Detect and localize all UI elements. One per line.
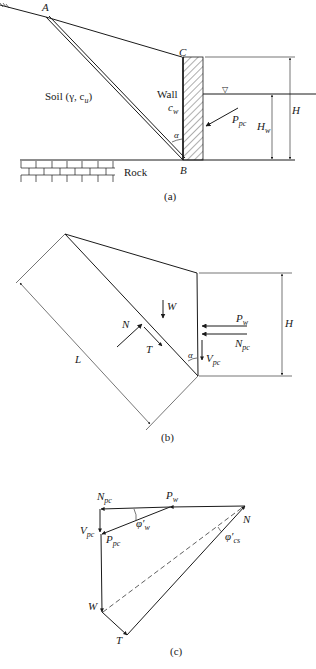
label-pw-c: Pw (166, 490, 178, 504)
wedge-top (65, 234, 197, 273)
wedge-wall (197, 273, 198, 376)
label-alpha-b: α (188, 351, 193, 360)
label-rock: Rock (124, 167, 147, 178)
vector-npc (101, 507, 170, 509)
label-hw: Hw (257, 121, 270, 135)
label-phi-cs: φ′cs (225, 531, 240, 545)
label-w: W (167, 301, 176, 312)
label-phi-w: φ′w (136, 518, 150, 532)
label-w-c: W (88, 601, 97, 612)
label-vpc-c: Vpc (80, 525, 94, 539)
label-h-b: H (285, 318, 293, 329)
ground-surface (0, 5, 46, 17)
label-npc-c: Npc (97, 491, 112, 505)
label-point-c: C (179, 47, 186, 58)
label-point-b: B (180, 165, 187, 176)
vector-t (102, 612, 127, 635)
label-n: N (122, 319, 129, 330)
label-n-c: N (243, 514, 250, 525)
label-t-c: T (116, 635, 122, 646)
label-pw: Pw (236, 313, 248, 327)
label-ppc-c: Ppc (106, 534, 120, 548)
label-soil: Soil (γ, cu) (45, 91, 92, 105)
caption-c: (c) (170, 646, 182, 657)
water-table-icon: ▽ (222, 86, 228, 94)
label-wall: Wall (157, 89, 178, 100)
force-n-arrow (117, 324, 142, 347)
label-wall-cw: cw (168, 102, 178, 116)
label-ppc: Ppc (232, 114, 246, 128)
rock-bricks (21, 161, 115, 182)
vector-w (101, 534, 102, 612)
panel-b (16, 234, 292, 430)
label-npc: Npc (235, 338, 250, 352)
panel-c (100, 506, 245, 635)
caption-b: (b) (161, 432, 174, 443)
label-t: T (146, 344, 152, 355)
wedge-slip (65, 234, 198, 376)
label-point-a: A (42, 2, 49, 13)
caption-a: (a) (164, 191, 176, 202)
resultant-dashed (103, 507, 243, 612)
label-alpha: α (174, 131, 179, 140)
wall (183, 57, 203, 160)
slope-surface (46, 17, 182, 57)
vector-pw (170, 506, 245, 507)
label-l: L (75, 354, 81, 365)
label-h: H (292, 105, 300, 116)
label-vpc: Vpc (206, 353, 220, 367)
